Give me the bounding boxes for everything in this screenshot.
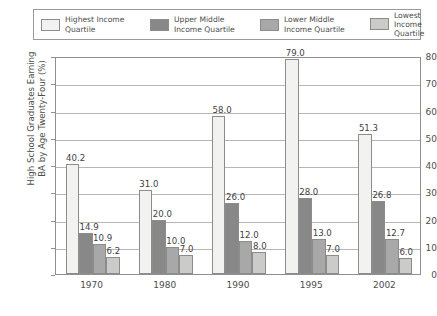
figure-caption — [55, 305, 425, 316]
bar — [93, 244, 107, 274]
bar-chart-figure: Highest Income Quartile Upper Middle Inc… — [0, 0, 437, 316]
bar-value-label: 14.9 — [80, 223, 99, 232]
y-tick-mark — [51, 275, 55, 276]
bar — [285, 59, 299, 274]
bar — [106, 257, 120, 274]
bar-group: 40.214.910.96.2 — [56, 58, 129, 274]
bar-value-label: 20.0 — [153, 210, 172, 219]
bar-value-label: 51.3 — [359, 124, 378, 133]
plot-area: 40.214.910.96.231.020.010.07.058.026.012… — [55, 57, 421, 275]
legend-label-upper-middle-income-quartile: Upper Middle Income Quartile — [174, 15, 235, 33]
bar — [79, 233, 93, 274]
bar-value-label: 7.0 — [326, 245, 340, 254]
bar — [152, 220, 166, 275]
x-tick-label: 1970 — [62, 281, 122, 290]
y-axis-label: High School Graduates Earning BA by Age … — [26, 14, 47, 224]
bar — [66, 164, 80, 274]
x-tick-label: 1990 — [208, 281, 268, 290]
bar — [399, 258, 413, 274]
bar-value-label: 79.0 — [286, 49, 305, 58]
bar-value-label: 40.2 — [66, 154, 85, 163]
bar-group: 79.028.013.07.0 — [276, 58, 349, 274]
chart-legend: Highest Income Quartile Upper Middle Inc… — [33, 9, 421, 40]
bar — [166, 247, 180, 274]
bar-group: 58.026.012.08.0 — [202, 58, 275, 274]
bar-value-label: 12.7 — [386, 229, 405, 238]
legend-label-highest-income-quartile: Highest Income Quartile — [65, 15, 124, 33]
x-tick-label: 1980 — [135, 281, 195, 290]
bar-value-label: 7.0 — [180, 245, 194, 254]
bar-group: 31.020.010.07.0 — [129, 58, 202, 274]
bar-value-label: 6.2 — [107, 247, 121, 256]
bar-value-label: 26.8 — [372, 191, 391, 200]
bar-value-label: 8.0 — [253, 242, 267, 251]
bar — [139, 190, 153, 274]
bar — [358, 134, 372, 274]
bar-value-label: 6.0 — [399, 248, 413, 257]
legend-swatch-lowest-income-quartile — [370, 18, 389, 30]
bar-value-label: 12.0 — [239, 231, 258, 240]
bar-value-label: 58.0 — [212, 106, 231, 115]
bar-group: 51.326.812.76.0 — [349, 58, 422, 274]
legend-label-lowest-income-quartile: Lowest Income Quartile — [394, 11, 437, 39]
bar-value-label: 26.0 — [226, 193, 245, 202]
legend-item-lowest-income-quartile: Lowest Income Quartile — [363, 11, 437, 39]
legend-swatch-upper-middle-income-quartile — [150, 19, 169, 31]
bar-value-label: 28.0 — [299, 188, 318, 197]
bar — [312, 239, 326, 274]
bar — [239, 241, 253, 274]
bar — [212, 116, 226, 274]
bar — [179, 255, 193, 274]
x-tick-label: 1995 — [281, 281, 341, 290]
legend-label-lower-middle-income-quartile: Lower Middle Income Quartile — [284, 15, 345, 33]
x-tick-label: 2002 — [354, 281, 414, 290]
bar — [225, 203, 239, 274]
bar — [385, 239, 399, 274]
legend-item-highest-income-quartile: Highest Income Quartile — [34, 15, 143, 33]
bar-value-label: 10.9 — [93, 234, 112, 243]
legend-item-lower-middle-income-quartile: Lower Middle Income Quartile — [253, 15, 363, 33]
bar — [252, 252, 266, 274]
bar — [372, 201, 386, 274]
bar — [326, 255, 340, 274]
bar-value-label: 13.0 — [313, 229, 332, 238]
bar — [299, 198, 313, 274]
legend-swatch-lower-middle-income-quartile — [260, 19, 279, 31]
bar-value-label: 31.0 — [139, 180, 158, 189]
legend-item-upper-middle-income-quartile: Upper Middle Income Quartile — [143, 15, 253, 33]
